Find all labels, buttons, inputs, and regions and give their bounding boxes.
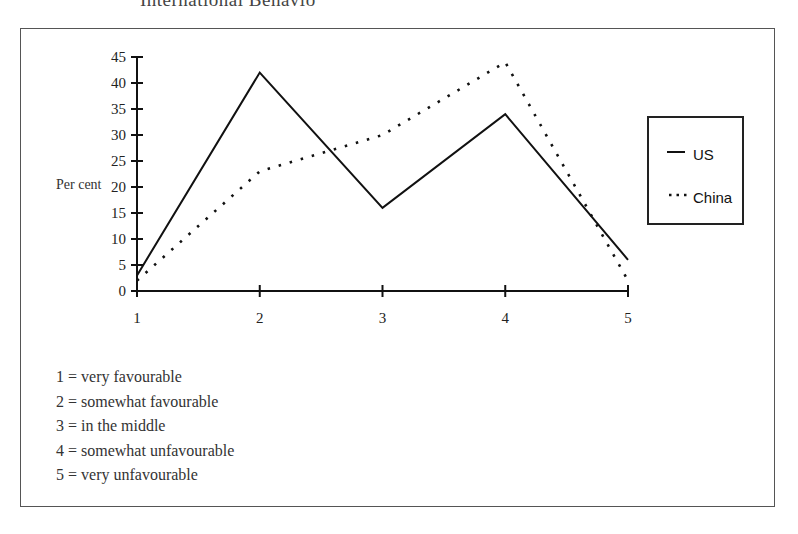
- series-line-us: [137, 73, 628, 276]
- y-tick-label: 40: [111, 75, 126, 91]
- x-tick-label: 5: [624, 310, 632, 326]
- scale-key-item: 4 = somewhat unfavourable: [56, 439, 234, 464]
- y-tick-label: 5: [119, 257, 127, 273]
- y-tick-label: 25: [111, 153, 126, 169]
- y-tick-label: 30: [111, 127, 126, 143]
- y-tick-label: 45: [111, 49, 126, 65]
- y-tick-label: 0: [119, 283, 127, 299]
- y-tick-label: 35: [111, 101, 126, 117]
- y-axis-label: Per cent: [56, 177, 101, 193]
- x-tick-label: 2: [256, 310, 264, 326]
- y-tick-label: 20: [111, 179, 126, 195]
- y-tick-label: 15: [111, 205, 126, 221]
- legend-label-china: China: [693, 189, 732, 206]
- scale-key: 1 = very favourable 2 = somewhat favoura…: [56, 365, 234, 488]
- scale-key-item: 3 = in the middle: [56, 414, 234, 439]
- legend-label-us: US: [693, 146, 714, 163]
- scale-key-item: 2 = somewhat favourable: [56, 390, 234, 415]
- scale-key-item: 1 = very favourable: [56, 365, 234, 390]
- x-tick-label: 1: [133, 310, 141, 326]
- y-tick-label: 10: [111, 231, 126, 247]
- chart-legend: US China: [647, 116, 744, 225]
- x-tick-label: 4: [502, 310, 510, 326]
- scale-key-item: 5 = very unfavourable: [56, 463, 234, 488]
- x-tick-label: 3: [379, 310, 387, 326]
- chart-series: [137, 62, 628, 280]
